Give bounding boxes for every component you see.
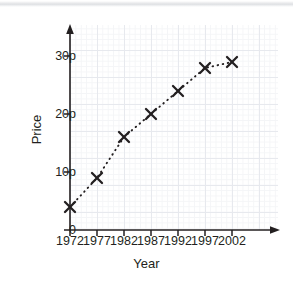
x-tick-label-1987: 1987 — [137, 234, 165, 248]
x-tick-label-1997: 1997 — [191, 234, 219, 248]
x-axis-title: Year — [0, 256, 293, 271]
data-point-1977 — [92, 173, 102, 183]
y-tick-label-30p: 30p — [55, 49, 76, 63]
x-tick-label-1992: 1992 — [164, 234, 192, 248]
x-tick-label-1982: 1982 — [110, 234, 138, 248]
x-tick-label-1972: 1972 — [56, 234, 84, 248]
y-tick-label-10p: 10p — [55, 165, 76, 179]
y-tick-label-20p: 20p — [55, 107, 76, 121]
data-point-markers — [65, 57, 237, 212]
data-series-line — [70, 62, 232, 207]
data-point-1982 — [119, 132, 129, 142]
chart-page: 0 10p 20p 30p 1972 1977 1982 1987 1992 1… — [0, 0, 293, 283]
y-axis-title: Price — [29, 107, 44, 153]
line-chart-figure: 0 10p 20p 30p 1972 1977 1982 1987 1992 1… — [0, 0, 293, 283]
x-tick-label-2002: 2002 — [218, 234, 246, 248]
x-tick-label-1977: 1977 — [83, 234, 111, 248]
data-point-1992 — [173, 86, 183, 96]
x-axis — [70, 226, 280, 234]
data-point-1987 — [146, 109, 156, 119]
